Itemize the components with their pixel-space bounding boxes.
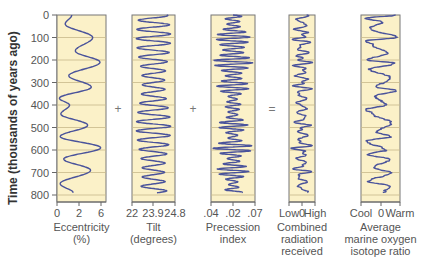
panel-precession: .04.02.07Precessionindex (203, 15, 262, 245)
y-tick-label: 400 (31, 99, 49, 111)
x-tick-label: .02 (225, 207, 240, 219)
x-tick-label: 6 (98, 207, 104, 219)
y-tick-label: 800 (31, 189, 49, 201)
orbital-cycles-figure: 0100200300400500600700800026Eccentricity… (0, 0, 431, 268)
x-tick-label: 24.8 (164, 207, 185, 219)
y-tick-label: 0 (43, 9, 49, 21)
x-tick-label: High (304, 207, 327, 219)
x-tick-label: .07 (247, 207, 262, 219)
x-axis-label: (%) (73, 233, 90, 245)
plus-operator: + (189, 102, 196, 116)
x-axis-label: Average (360, 221, 401, 233)
x-tick-label: Warm (386, 207, 415, 219)
x-tick-label: 0 (378, 207, 384, 219)
x-axis-label: Precession (206, 221, 260, 233)
plus-operator: + (114, 102, 121, 116)
x-axis-label: index (220, 233, 247, 245)
x-axis-label: marine oxygen (344, 233, 416, 245)
panel-isotope: Cool0WarmAveragemarine oxygenisotope rat… (344, 15, 416, 257)
x-axis-label: Eccentricity (53, 221, 110, 233)
x-tick-label: 23.9 (142, 207, 163, 219)
panel-tilt: 2223.924.8Tilt(degrees) (126, 15, 186, 245)
x-tick-label: Low (279, 207, 299, 219)
y-tick-label: 200 (31, 54, 49, 66)
y-tick-label: 100 (31, 32, 49, 44)
y-tick-label: 700 (31, 167, 49, 179)
x-axis-label: isotope ratio (351, 245, 411, 257)
x-tick-label: 2 (76, 207, 82, 219)
equals-operator: = (268, 102, 275, 116)
x-tick-label: Cool (350, 207, 373, 219)
x-tick-label: 0 (54, 207, 60, 219)
panel-radiation: Low0HighCombinedradiationreceived (277, 15, 327, 257)
panel-eccentricity: 026Eccentricity(%) (53, 15, 110, 245)
y-axis-label: Time (thousands of years ago) (6, 31, 20, 205)
x-tick-label: 22 (126, 207, 138, 219)
y-tick-label: 500 (31, 122, 49, 134)
x-axis-label: received (281, 245, 323, 257)
x-tick-label: .04 (203, 207, 218, 219)
x-axis-label: (degrees) (130, 233, 177, 245)
x-axis-label: radiation (281, 233, 323, 245)
x-axis-label: Combined (277, 221, 327, 233)
y-tick-label: 300 (31, 77, 49, 89)
y-tick-label: 600 (31, 144, 49, 156)
y-axis: 0100200300400500600700800 (31, 9, 57, 202)
x-axis-label: Tilt (146, 221, 160, 233)
